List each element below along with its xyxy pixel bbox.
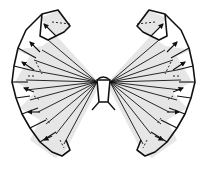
right-wing (110, 10, 195, 158)
left-wing (12, 10, 97, 158)
butterfly-diagram (0, 0, 207, 172)
